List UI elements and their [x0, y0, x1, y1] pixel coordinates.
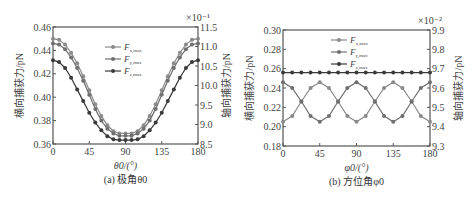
data-point [172, 66, 176, 70]
data-point [124, 134, 128, 138]
right-axis-multiplier: ×10⁻¹ [186, 12, 210, 23]
data-point [327, 71, 331, 75]
data-point [136, 137, 140, 141]
data-point [160, 111, 164, 115]
data-point [364, 71, 368, 75]
x-tick-label: 45 [84, 146, 94, 157]
data-point [327, 114, 331, 118]
data-point [190, 60, 194, 64]
data-point [364, 86, 368, 90]
data-point [190, 43, 194, 47]
y-left-tick-label: 0.26 [264, 63, 282, 74]
data-point [130, 138, 134, 142]
data-point [178, 55, 182, 59]
data-point [373, 100, 377, 104]
data-point [69, 51, 73, 55]
x-tick-label: 0 [281, 148, 286, 159]
data-point [178, 76, 182, 80]
data-point [75, 66, 79, 70]
data-point [166, 99, 170, 103]
right-axis-multiplier: ×10⁻² [418, 15, 442, 26]
data-point [166, 79, 170, 83]
data-point [87, 93, 91, 97]
series-line-fymax [283, 82, 430, 122]
legend-entry: Fz,max [349, 59, 368, 71]
data-point [428, 71, 432, 75]
x-axis-label: θ0/(°) [114, 160, 138, 172]
y-right-axis-label: 轴向捕获力/pN [220, 53, 232, 118]
legend-entry: Fy,max [349, 47, 368, 59]
series-line-fxmax [283, 82, 430, 122]
data-point [184, 66, 188, 70]
legend-entry: Fx,max [349, 35, 368, 47]
data-point [290, 86, 294, 90]
data-point [400, 71, 404, 75]
data-point [318, 80, 322, 84]
data-point [281, 71, 285, 75]
data-point [355, 120, 359, 124]
data-point [184, 43, 188, 47]
data-point [428, 80, 432, 84]
legend-marker [111, 57, 115, 61]
data-point [81, 99, 85, 103]
y-right-tick-label: 9.7 [432, 63, 445, 74]
x-axis-label: φ0/(°) [345, 162, 370, 174]
chart-panel-polar-angle: 045901351800.460.440.420.400.380.3611.51… [13, 12, 232, 186]
legend-marker [337, 50, 341, 54]
data-point [391, 120, 395, 124]
legend-marker [111, 45, 115, 49]
data-point [281, 80, 285, 84]
data-point [382, 86, 386, 90]
data-point [410, 71, 414, 75]
data-point [87, 111, 91, 115]
data-point [309, 114, 313, 118]
data-point [51, 37, 55, 41]
y-right-tick-label: 9.5 [432, 102, 445, 113]
data-point [309, 71, 313, 75]
y-left-tick-label: 0.28 [264, 44, 282, 55]
data-point [111, 137, 115, 141]
data-point [382, 71, 386, 75]
data-point [75, 87, 79, 91]
data-point [190, 38, 194, 42]
data-point [154, 121, 158, 125]
legend-marker [337, 38, 341, 42]
panel-caption: (a) 极角θ0 [104, 173, 147, 186]
data-point [345, 86, 349, 90]
y-right-tick-label: 10.5 [200, 61, 218, 72]
y-left-tick-label: 0.22 [264, 102, 282, 113]
data-point [63, 47, 67, 51]
data-point [196, 37, 200, 41]
y-left-tick-label: 0.40 [34, 92, 52, 103]
y-right-tick-label: 9.6 [432, 83, 445, 94]
data-point [318, 71, 322, 75]
data-point [336, 100, 340, 104]
data-point [309, 86, 313, 90]
data-point [364, 114, 368, 118]
y-left-tick-label: 0.46 [34, 22, 52, 33]
y-right-tick-label: 9.4 [432, 121, 445, 132]
data-point [69, 55, 73, 59]
data-point [105, 127, 109, 131]
data-point [184, 47, 188, 51]
data-point [93, 121, 97, 125]
x-tick-label: 90 [352, 148, 362, 159]
data-point [69, 76, 73, 80]
data-point [136, 131, 140, 135]
data-point [130, 134, 134, 138]
y-left-tick-label: 0.38 [34, 115, 52, 126]
y-left-axis-label: 横向捕获力/pN [13, 53, 25, 118]
data-point [382, 114, 386, 118]
data-point [290, 71, 294, 75]
data-point [111, 131, 115, 135]
y-right-tick-label: 9.5 [200, 100, 213, 111]
data-point [410, 100, 414, 104]
y-right-tick-label: 9.0 [200, 119, 213, 130]
y-right-tick-label: 11.0 [200, 41, 217, 52]
data-point [400, 86, 404, 90]
y-left-tick-label: 0.36 [34, 139, 52, 150]
data-point [99, 119, 103, 123]
data-point [290, 114, 294, 118]
data-point [142, 127, 146, 131]
data-point [105, 134, 109, 138]
